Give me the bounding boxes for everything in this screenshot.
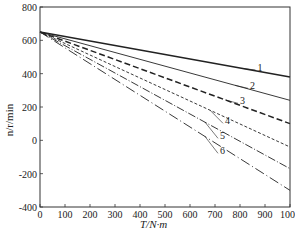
- leader-line: [210, 110, 223, 123]
- leader-line: [205, 137, 218, 154]
- x-tick-label: 800: [233, 209, 248, 220]
- series-line-3: [40, 32, 290, 124]
- series-label-5: 5: [220, 130, 225, 141]
- x-tick-label: 100: [58, 209, 73, 220]
- x-tick-label: 600: [183, 209, 198, 220]
- series-lines: [40, 32, 290, 190]
- line-chart: 01002003004005006007008009001000-400-200…: [0, 0, 295, 235]
- x-tick-label: 1000: [280, 209, 295, 220]
- leader-line: [225, 100, 238, 104]
- plot-frame: [40, 7, 290, 207]
- y-tick-label: -200: [19, 169, 37, 180]
- series-label-1: 1: [258, 62, 263, 73]
- x-axis-label: T/N·m: [140, 218, 167, 230]
- series-line-1: [40, 32, 290, 77]
- series-label-6: 6: [220, 145, 225, 156]
- y-tick-label: 800: [22, 2, 37, 13]
- x-tick-label: 700: [208, 209, 223, 220]
- x-tick-label: 900: [258, 209, 273, 220]
- y-tick-label: 200: [22, 102, 37, 113]
- series-label-2: 2: [250, 80, 255, 91]
- y-tick-label: 0: [32, 135, 37, 146]
- x-tick-label: 0: [38, 209, 43, 220]
- x-tick-label: 200: [83, 209, 98, 220]
- x-tick-label: 300: [108, 209, 123, 220]
- series-line-5: [40, 32, 290, 169]
- y-tick-label: 600: [22, 35, 37, 46]
- series-line-6: [40, 32, 290, 190]
- y-tick-label: -400: [19, 202, 37, 213]
- y-axis-label: n/r/min: [3, 103, 15, 136]
- series-label-3: 3: [240, 95, 245, 106]
- series-label-4: 4: [225, 115, 230, 126]
- leader-line: [235, 85, 248, 88]
- y-tick-label: 400: [22, 69, 37, 80]
- leader-line: [205, 122, 218, 138]
